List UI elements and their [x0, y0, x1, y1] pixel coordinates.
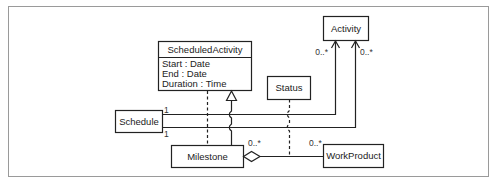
multiplicity-schedule-lower: 1 [164, 129, 169, 139]
class-work-product[interactable]: WorkProduct [324, 145, 384, 168]
diamond-icon [244, 152, 261, 162]
class-name: WorkProduct [326, 150, 381, 161]
class-schedule[interactable]: Schedule [116, 111, 163, 133]
multiplicity-milestone-aggregation: 0..* [248, 138, 261, 148]
multiplicity-schedule-upper: 1 [164, 105, 169, 115]
generalization-milestone-scheduledactivity [227, 91, 237, 146]
aggregation-milestone-workproduct [244, 152, 324, 162]
multiplicity-work-product: 0..* [309, 138, 322, 148]
diagram-frame [9, 7, 489, 177]
class-scheduled-activity[interactable]: ScheduledActivity Start : Date End : Dat… [159, 42, 252, 91]
attribute-duration: Duration : Time [162, 78, 226, 89]
class-name: Schedule [119, 116, 159, 127]
triangle-icon [227, 91, 237, 101]
class-name: Milestone [187, 151, 228, 162]
class-activity[interactable]: Activity [324, 17, 369, 41]
class-name: ScheduledActivity [168, 44, 243, 55]
class-status[interactable]: Status [268, 77, 311, 100]
uml-diagram-canvas: ScheduledActivity Start : Date End : Dat… [0, 0, 496, 183]
class-name: Activity [331, 23, 361, 34]
multiplicity-activity-right: 0..* [360, 47, 373, 57]
class-name: Status [276, 82, 303, 93]
class-milestone[interactable]: Milestone [172, 146, 244, 168]
multiplicity-activity-left: 0..* [315, 47, 328, 57]
